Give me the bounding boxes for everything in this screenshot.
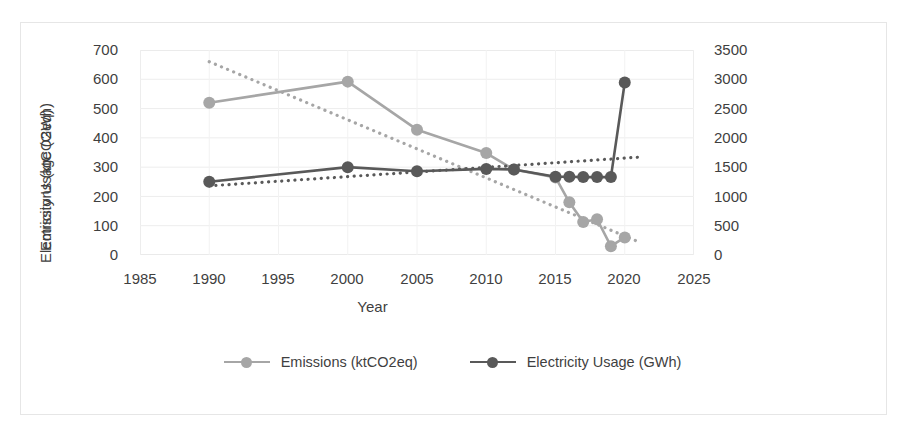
x-tick-2010: 2010 (469, 270, 502, 287)
y-right-tick-0: 0 (714, 246, 760, 263)
y-left-tick-700: 700 (72, 41, 118, 58)
legend-label-electricity: Electricity Usage (GWh) (527, 354, 682, 370)
data-point-emissions-1990 (203, 97, 215, 109)
legend-item-electricity[interactable]: Electricity Usage (GWh) (470, 353, 682, 370)
x-axis-title-wrap: Year (0, 298, 905, 315)
data-point-emissions-2017 (577, 216, 589, 228)
data-point-electricity-2005 (411, 165, 423, 177)
x-tick-1985: 1985 (123, 270, 156, 287)
y-left-tick-500: 500 (72, 100, 118, 117)
data-point-electricity-2015 (550, 171, 562, 183)
y-axis-left-ticks: 700 600 500 400 300 200 100 0 (70, 0, 118, 441)
y-axis-right-title: Electricity Usage (GWh) (37, 103, 54, 263)
data-point-emissions-2000 (342, 76, 354, 88)
y-axis-right-ticks: 3500 3000 2500 2000 1500 1000 500 0 (714, 0, 766, 441)
y-right-tick-2500: 2500 (714, 100, 760, 117)
data-point-emissions-2010 (480, 147, 492, 159)
x-tick-2000: 2000 (330, 270, 363, 287)
y-left-tick-600: 600 (72, 70, 118, 87)
y-right-tick-3000: 3000 (714, 70, 760, 87)
y-left-tick-300: 300 (72, 158, 118, 175)
x-axis-ticks: 1985 1990 1995 2000 2005 2010 2015 2020 … (0, 270, 905, 294)
data-point-electricity-2018 (591, 171, 603, 183)
data-point-emissions-2016 (563, 196, 575, 208)
x-axis-title: Year (357, 298, 387, 315)
data-point-electricity-2010 (480, 163, 492, 175)
y-right-tick-1500: 1500 (714, 158, 760, 175)
chart-legend: Emissions (ktCO2eq) Electricity Usage (G… (0, 352, 905, 370)
data-point-emissions-2005 (411, 124, 423, 136)
y-left-tick-100: 100 (72, 217, 118, 234)
data-point-emissions-2020 (619, 231, 631, 243)
x-tick-2025: 2025 (677, 270, 710, 287)
x-tick-2015: 2015 (538, 270, 571, 287)
data-point-electricity-1990 (203, 176, 215, 188)
data-point-electricity-2000 (342, 161, 354, 173)
data-point-electricity-2012 (508, 163, 520, 175)
y-right-tick-1000: 1000 (714, 188, 760, 205)
data-point-emissions-2019 (605, 240, 617, 252)
chart-svg (140, 50, 694, 255)
y-left-tick-200: 200 (72, 188, 118, 205)
x-tick-1990: 1990 (192, 270, 225, 287)
x-tick-1995: 1995 (261, 270, 294, 287)
y-left-tick-400: 400 (72, 129, 118, 146)
data-point-electricity-2020 (619, 77, 631, 89)
legend-swatch-emissions (224, 356, 270, 368)
y-right-tick-3500: 3500 (714, 41, 760, 58)
x-tick-2005: 2005 (400, 270, 433, 287)
legend-swatch-electricity (470, 356, 516, 368)
data-point-electricity-2019 (605, 171, 617, 183)
y-right-tick-2000: 2000 (714, 129, 760, 146)
data-point-emissions-2018 (591, 213, 603, 225)
legend-item-emissions[interactable]: Emissions (ktCO2eq) (224, 353, 418, 370)
legend-label-emissions: Emissions (ktCO2eq) (281, 354, 418, 370)
y-right-tick-500: 500 (714, 217, 760, 234)
x-tick-2020: 2020 (607, 270, 640, 287)
data-point-electricity-2016 (563, 171, 575, 183)
data-point-electricity-2017 (577, 171, 589, 183)
y-left-tick-0: 0 (72, 246, 118, 263)
plot-area (140, 50, 694, 255)
